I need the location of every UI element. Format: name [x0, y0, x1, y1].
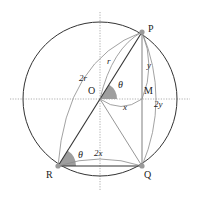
label-2y: 2y [154, 100, 163, 109]
label-R: R [46, 170, 53, 180]
label-theta-at-R: θ [78, 150, 83, 160]
angle-theta-at-O [100, 85, 117, 99]
point-R [55, 163, 60, 168]
line-O-Q [100, 99, 142, 166]
label-O: O [88, 86, 95, 96]
label-M: M [144, 86, 153, 96]
label-y: y [147, 61, 151, 70]
label-2x: 2x [94, 149, 103, 158]
diagram-canvas [0, 0, 198, 198]
label-theta-at-O: θ [118, 80, 123, 90]
circle-geometry-diagram: P Q R O M r 2r y 2y x 2x θ θ [0, 0, 198, 198]
point-Q [139, 163, 144, 168]
label-Q: Q [144, 170, 151, 180]
brace-x [100, 99, 142, 107]
label-r: r [107, 57, 111, 66]
label-2r: 2r [79, 74, 87, 83]
label-x: x [123, 103, 127, 112]
label-P: P [148, 24, 154, 34]
point-P [139, 29, 144, 34]
